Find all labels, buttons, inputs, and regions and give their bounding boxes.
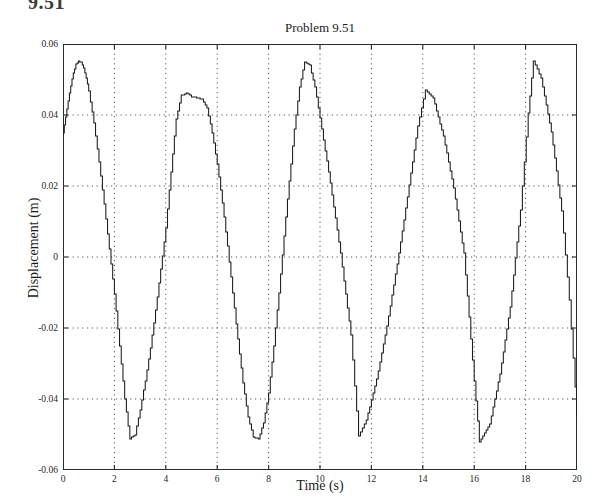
figure-container: Problem 9.51 0.060.040.020-0.02-0.04-0.0… — [0, 0, 597, 502]
plot-canvas — [63, 44, 577, 470]
y-tick-label: 0.02 — [41, 181, 58, 191]
plot-area — [63, 44, 577, 470]
chart-title: Problem 9.51 — [63, 20, 577, 36]
y-tick-label: -0.06 — [38, 465, 58, 475]
y-tick-label: -0.04 — [38, 394, 58, 404]
y-tick-label: 0 — [53, 252, 58, 262]
y-tick-label: 0.06 — [41, 39, 58, 49]
x-axis-label: Time (s) — [63, 478, 577, 494]
y-tick-label: 0.04 — [41, 110, 58, 120]
y-axis-label: Displacement (m) — [26, 158, 42, 338]
